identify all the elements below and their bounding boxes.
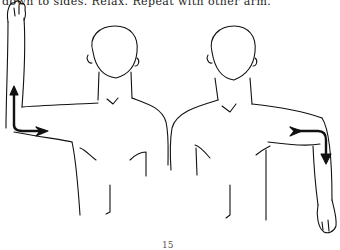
left-figure bbox=[6, 1, 168, 215]
page-number: 15 bbox=[162, 240, 173, 250]
right-figure bbox=[170, 26, 336, 233]
